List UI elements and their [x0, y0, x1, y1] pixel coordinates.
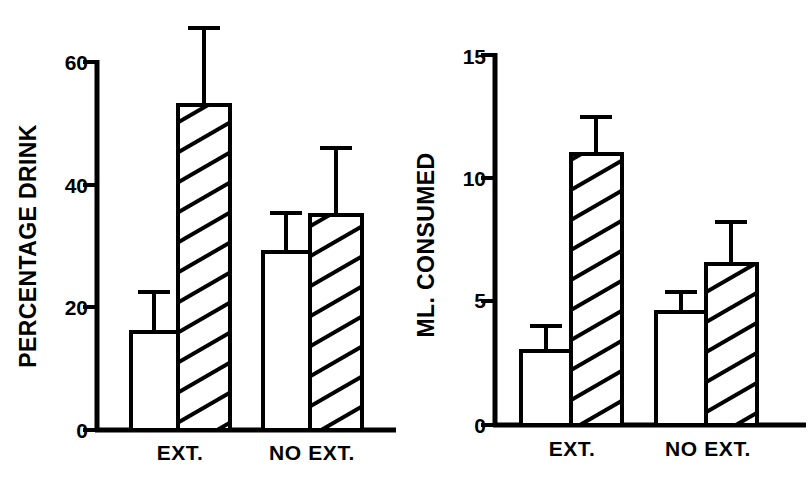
bar-open-ext: [521, 351, 571, 425]
chart-panel-percentage-drink: PERCENTAGE DRINK 60 40 20 0: [0, 0, 406, 483]
error-bar-hatched-ext: [580, 117, 612, 154]
bar-hatched-no-ext: [310, 215, 362, 430]
bar-open-ext: [131, 332, 178, 430]
chart-panel-ml-consumed: ML. CONSUMED 15 10 5 0: [406, 0, 812, 483]
bar-hatched-ext: [178, 105, 230, 430]
category-label-ext: EXT.: [549, 437, 596, 460]
error-bar-open-no-ext: [270, 213, 302, 252]
error-bar-open-ext: [530, 326, 562, 351]
error-bar-hatched-ext: [188, 28, 220, 105]
ml-consumed-svg: ML. CONSUMED 15 10 5 0: [406, 0, 812, 483]
percentage-drink-svg: PERCENTAGE DRINK 60 40 20 0: [0, 0, 406, 483]
category-label-ext: EXT.: [157, 441, 204, 464]
bar-open-no-ext: [263, 252, 310, 430]
bar-hatched-no-ext: [706, 264, 757, 425]
error-bar-open-no-ext: [665, 292, 697, 312]
error-bar-hatched-no-ext: [320, 148, 352, 215]
error-bar-hatched-no-ext: [715, 222, 747, 264]
y-axis-title: ML. CONSUMED: [413, 153, 439, 338]
y-axis-title: PERCENTAGE DRINK: [15, 124, 41, 368]
bar-open-no-ext: [656, 312, 706, 425]
error-bar-open-ext: [138, 292, 170, 332]
category-label-no-ext: NO EXT.: [665, 437, 751, 460]
bar-hatched-ext: [571, 154, 622, 425]
figure-canvas: PERCENTAGE DRINK 60 40 20 0: [0, 0, 812, 483]
category-label-no-ext: NO EXT.: [269, 441, 355, 464]
